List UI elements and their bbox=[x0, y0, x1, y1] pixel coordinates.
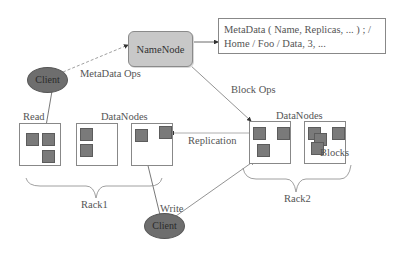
read-edge bbox=[46, 91, 52, 126]
client-top-label: Client bbox=[28, 74, 67, 85]
block bbox=[26, 133, 39, 146]
rack1-label: Rack1 bbox=[81, 200, 108, 211]
rack2-label: Rack2 bbox=[284, 194, 311, 205]
client-bottom-label: Client bbox=[145, 220, 184, 231]
block bbox=[42, 150, 55, 163]
block bbox=[80, 128, 93, 141]
blocks-label: Blocks bbox=[320, 148, 349, 159]
namenode-box: NameNode bbox=[128, 31, 193, 67]
rack2-datanode-1 bbox=[249, 121, 291, 164]
rack1-brace bbox=[26, 178, 162, 198]
block bbox=[277, 127, 290, 140]
namenode-label: NameNode bbox=[129, 44, 192, 55]
client-top: Client bbox=[27, 67, 68, 93]
block bbox=[135, 129, 148, 142]
rack1-datanode-1 bbox=[19, 123, 61, 166]
write-label: Write bbox=[160, 204, 183, 215]
read-label: Read bbox=[23, 112, 45, 123]
block bbox=[80, 144, 93, 157]
block bbox=[159, 126, 172, 139]
block bbox=[42, 133, 55, 146]
replication-label: Replication bbox=[188, 136, 236, 147]
rack2-brace bbox=[243, 165, 351, 192]
write-edge-rack2 bbox=[176, 161, 254, 216]
metadata-box: MetaData ( Name, Replicas, ... ) ; / Hom… bbox=[218, 18, 386, 54]
rack1-datanode-3 bbox=[131, 123, 173, 166]
rack1-datanode-2 bbox=[76, 123, 118, 166]
metadata-ops-label: MetaData Ops bbox=[80, 69, 141, 80]
block-ops-label: Block Ops bbox=[231, 85, 276, 96]
metadata-line-2: Home / Foo / Data, 3, ... bbox=[224, 38, 326, 49]
block bbox=[253, 127, 266, 140]
block bbox=[257, 144, 270, 157]
rack2-datanodes-label: DataNodes bbox=[276, 111, 323, 122]
client-bottom: Client bbox=[144, 213, 185, 239]
metadata-line-1: MetaData ( Name, Replicas, ... ) ; / bbox=[224, 24, 371, 35]
block bbox=[332, 127, 345, 140]
rack1-datanodes-label: DataNodes bbox=[101, 112, 148, 123]
